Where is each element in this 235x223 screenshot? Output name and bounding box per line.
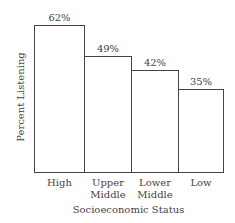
category-line: Low: [178, 177, 224, 189]
bar-upper-middle: [84, 56, 132, 173]
value-label-lower-middle: 42%: [131, 58, 179, 68]
category-label-lower-middle: Lower Middle: [131, 177, 179, 201]
category-line: High: [34, 177, 85, 189]
y-axis-label: Percent Listening: [15, 52, 26, 142]
category-label-upper-middle: Upper Middle: [84, 177, 132, 201]
category-line: Lower: [131, 177, 179, 189]
category-line: Middle: [131, 189, 179, 201]
category-label-low: Low: [178, 177, 224, 189]
bar-lower-middle: [131, 70, 179, 173]
value-label-low: 35%: [178, 77, 224, 87]
category-label-high: High: [34, 177, 85, 189]
value-label-high: 62%: [34, 13, 85, 23]
category-line: Upper: [84, 177, 132, 189]
value-label-upper-middle: 49%: [84, 44, 132, 54]
bar-low: [178, 89, 224, 173]
category-line: Middle: [84, 189, 132, 201]
bar-high: [34, 25, 85, 173]
x-axis-label: Socioeconomic Status: [34, 204, 223, 215]
